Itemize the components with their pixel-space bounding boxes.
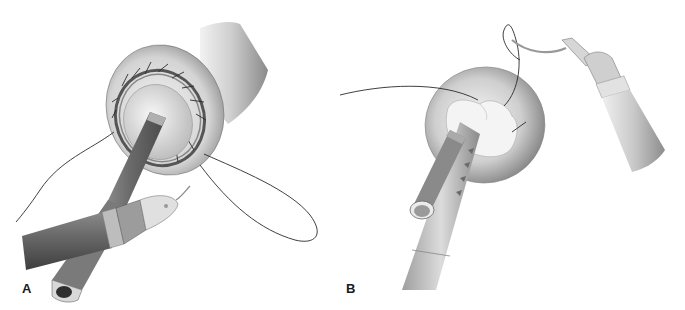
panel-b: B [340, 0, 685, 310]
surgical-illustration-figure: A [0, 0, 685, 310]
needle-holder-arm [602, 90, 665, 172]
suture-thread-left [16, 132, 114, 222]
needle [176, 186, 190, 200]
panel-label-a: A [22, 282, 31, 295]
panel-a: A [0, 0, 340, 310]
suture-loop-right [200, 154, 317, 241]
panel-b-illustration [340, 0, 685, 310]
panel-label-b: B [346, 282, 355, 295]
curved-needle [512, 40, 566, 52]
panel-a-illustration [0, 0, 340, 310]
